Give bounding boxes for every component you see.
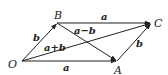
parallelogram-vector-diagram: O A B C a b a b a+b a−b [0, 0, 168, 75]
vector-label-bc: a [101, 11, 107, 22]
point-label-b: B [53, 9, 62, 22]
point-label-a: A [113, 64, 122, 75]
point-label-o: O [8, 58, 17, 71]
vector-label-ob: b [33, 32, 40, 43]
vector-label-ac: b [136, 38, 143, 49]
point-label-c: C [154, 17, 163, 30]
vector-label-oc: a+b [44, 42, 66, 53]
vector-label-ba: a−b [74, 25, 96, 36]
vector-label-oa: a [63, 62, 69, 73]
vector-ac [117, 24, 151, 61]
